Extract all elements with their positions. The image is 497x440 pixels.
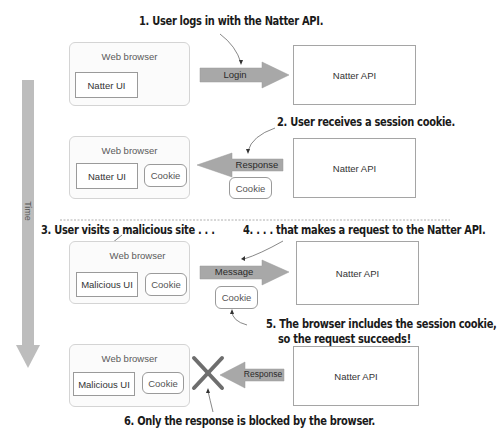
caption-step-1: 1. User logs in with the Natter API. xyxy=(139,14,323,28)
caption-step-4: 4. . . . that makes a request to the Nat… xyxy=(243,223,485,237)
natter-ui-box: Natter UI xyxy=(75,72,138,98)
login-arrow-label: Login xyxy=(210,69,260,80)
malicious-ui-box: Malicious UI xyxy=(73,372,135,396)
browser-cookie: Cookie xyxy=(145,273,187,296)
caption-step-2: 2. User receives a session cookie. xyxy=(277,115,455,129)
caption-step-5-line-2: so the request succeeds! xyxy=(278,332,411,346)
message-arrow-label: Message xyxy=(208,266,260,277)
response-arrow-label: Response xyxy=(232,159,282,170)
web-browser-label: Web browser xyxy=(86,250,189,261)
browser-cookie: Cookie xyxy=(144,164,187,187)
natter-api-box: Natter API xyxy=(293,346,419,406)
web-browser-label: Web browser xyxy=(70,51,189,62)
natter-api-box: Natter API xyxy=(293,138,416,198)
transit-cookie: Cookie xyxy=(229,177,272,199)
natter-api-box: Natter API xyxy=(293,45,416,105)
blocked-response-arrow-label: Response xyxy=(240,369,286,379)
malicious-ui-box: Malicious UI xyxy=(76,272,138,297)
caption-step-6: 6. Only the response is blocked by the b… xyxy=(124,414,375,428)
browser-cookie: Cookie xyxy=(142,372,184,394)
natter-api-box: Natter API xyxy=(296,241,419,305)
caption-step-5-line-1: 5. The browser includes the session cook… xyxy=(266,317,497,331)
web-browser-label: Web browser xyxy=(70,145,189,156)
web-browser-label: Web browser xyxy=(70,353,189,364)
transit-cookie: Cookie xyxy=(215,286,258,309)
natter-ui-box: Natter UI xyxy=(76,163,138,189)
caption-step-3: 3. User visits a malicious site . . . xyxy=(41,223,215,237)
time-arrow-icon xyxy=(16,80,40,368)
blocked-x-icon xyxy=(194,358,222,388)
time-label: Time xyxy=(23,198,33,224)
